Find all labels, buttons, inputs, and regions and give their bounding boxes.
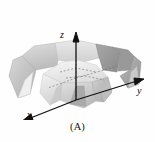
z-axis-arrowhead (73, 32, 79, 42)
surface-plot-area (0, 0, 155, 120)
x-axis-label: x (27, 110, 31, 120)
z-axis-label: z (60, 30, 64, 40)
figure-caption: (A) (0, 121, 155, 132)
surface-panel-center-rear (55, 40, 99, 63)
figure-container: z y x (A) (0, 0, 155, 142)
y-axis-label: y (137, 86, 141, 96)
surface-plot-svg (0, 0, 155, 120)
